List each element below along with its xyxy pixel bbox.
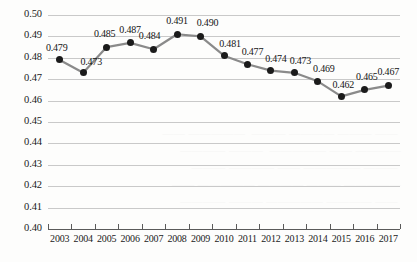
data-point-marker[interactable] — [80, 69, 87, 76]
data-point-marker[interactable] — [197, 33, 204, 40]
data-point-label: 0.490 — [197, 17, 219, 28]
x-axis-tick — [259, 224, 260, 229]
data-point-label: 0.491 — [166, 15, 188, 26]
data-point-marker[interactable] — [221, 52, 228, 59]
data-point-label: 0.487 — [119, 24, 141, 35]
data-point-marker[interactable] — [103, 44, 110, 51]
data-point-label: 0.484 — [139, 30, 161, 41]
x-axis-tick — [236, 224, 237, 229]
x-axis-tick — [71, 224, 72, 229]
data-point-label: 0.485 — [94, 28, 116, 39]
data-point-label: 0.473 — [290, 55, 312, 66]
x-axis-tick — [283, 224, 284, 229]
x-axis-tick — [142, 224, 143, 229]
x-axis-tick — [306, 224, 307, 229]
data-point-label: 0.479 — [46, 42, 68, 53]
x-axis-tick — [118, 224, 119, 229]
chart-page: —— ——— ———— ——— ————— —— ———— —— ————— —… — [0, 0, 417, 262]
data-point-label: 0.481 — [219, 38, 241, 49]
data-point-label: 0.469 — [313, 63, 335, 74]
x-axis-tick — [353, 224, 354, 229]
line-series-svg — [0, 0, 417, 262]
x-axis-tick — [377, 224, 378, 229]
x-axis-tick — [189, 224, 190, 229]
data-point-marker[interactable] — [150, 46, 157, 53]
data-point-label: 0.473 — [80, 56, 102, 67]
data-point-marker[interactable] — [338, 93, 345, 100]
data-point-label: 0.465 — [356, 71, 378, 82]
data-point-label: 0.462 — [333, 79, 355, 90]
x-axis-tick — [165, 224, 166, 229]
x-axis-tick — [330, 224, 331, 229]
x-axis-line — [48, 229, 400, 230]
x-axis-tick — [48, 224, 49, 229]
data-point-label: 0.477 — [242, 46, 264, 57]
x-axis-tick-label: 2017 — [371, 233, 405, 244]
data-point-marker[interactable] — [244, 61, 251, 68]
data-point-marker[interactable] — [174, 31, 181, 38]
data-point-label: 0.474 — [265, 53, 287, 64]
x-axis-tick — [400, 224, 401, 229]
data-point-marker[interactable] — [385, 82, 392, 89]
data-point-label: 0.467 — [378, 66, 400, 77]
x-axis-tick — [212, 224, 213, 229]
data-point-marker[interactable] — [127, 39, 134, 46]
x-axis-tick — [95, 224, 96, 229]
